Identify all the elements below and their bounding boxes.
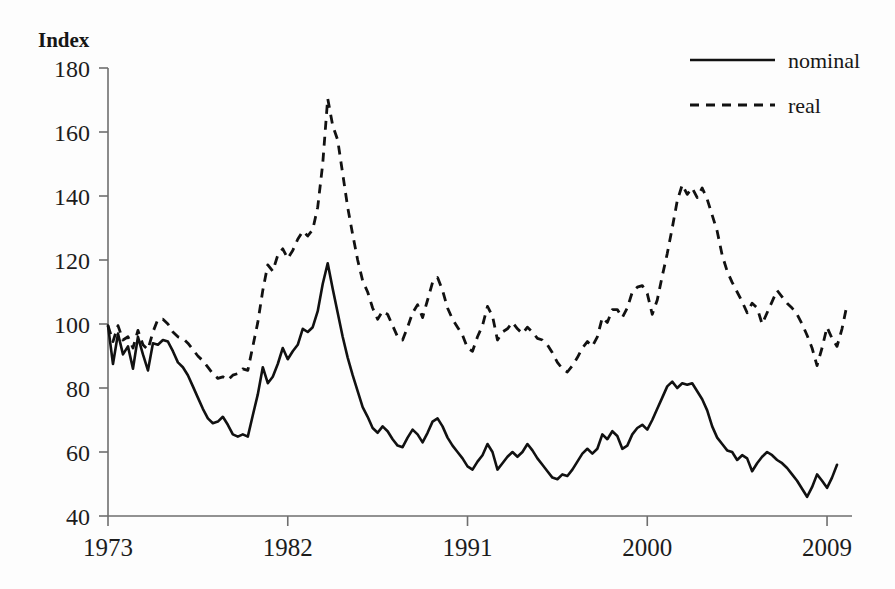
y-axis-ticks: 406080100120140160180 — [54, 56, 108, 530]
y-tick-label: 160 — [54, 120, 90, 146]
x-tick-label: 1973 — [83, 534, 133, 561]
x-tick-label: 2009 — [802, 534, 852, 561]
series-line-real — [108, 98, 847, 380]
y-tick-label: 60 — [66, 440, 90, 466]
y-axis-title: Index — [38, 28, 90, 52]
legend-label-nominal: nominal — [788, 48, 860, 73]
y-tick-label: 120 — [54, 248, 90, 274]
chart-figure: Index 406080100120140160180 197319821991… — [0, 0, 895, 589]
legend-label-real: real — [788, 93, 821, 118]
y-tick-label: 80 — [66, 376, 90, 402]
series-line-nominal — [108, 263, 837, 497]
data-series-layer — [108, 98, 847, 496]
y-tick-label: 100 — [54, 312, 90, 338]
x-axis-ticks: 19731982199120002009 — [83, 516, 852, 561]
y-tick-label: 180 — [54, 56, 90, 82]
y-tick-label: 140 — [54, 184, 90, 210]
x-tick-label: 1982 — [263, 534, 313, 561]
line-chart: Index 406080100120140160180 197319821991… — [0, 0, 895, 589]
axes — [108, 68, 852, 516]
chart-legend: nominal real — [690, 48, 860, 118]
y-tick-label: 40 — [66, 504, 90, 530]
x-tick-label: 2000 — [622, 534, 672, 561]
x-tick-label: 1991 — [443, 534, 493, 561]
